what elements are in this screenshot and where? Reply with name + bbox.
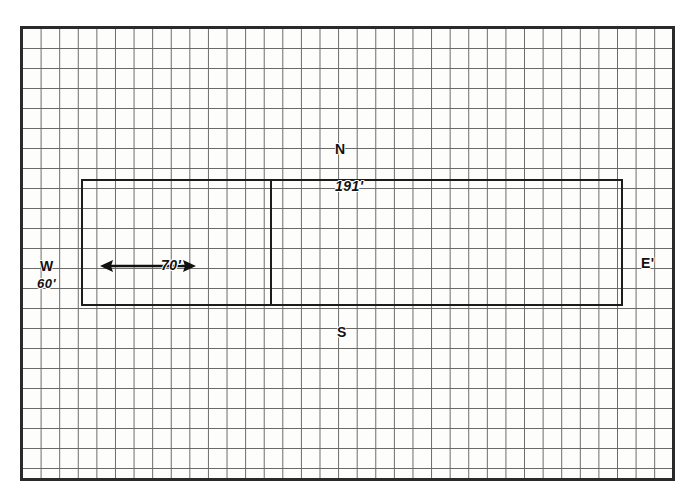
- compass-label-west: W: [40, 259, 54, 273]
- lot-divider-line: [270, 179, 272, 306]
- lot-rectangle: [81, 179, 623, 306]
- double-headed-arrow-icon: [98, 254, 198, 278]
- site-plan-diagram: N 191' W 60' 70' E' S: [0, 0, 695, 501]
- compass-label-east: E': [641, 256, 655, 270]
- dimension-label-width: 70': [161, 258, 181, 272]
- plot-frame: N 191' W 60' 70' E' S: [20, 26, 675, 481]
- compass-label-south: S: [337, 325, 347, 339]
- dimension-label-west: 60': [37, 277, 56, 290]
- compass-label-north: N: [335, 142, 346, 156]
- dimension-label-length: 191': [335, 179, 364, 193]
